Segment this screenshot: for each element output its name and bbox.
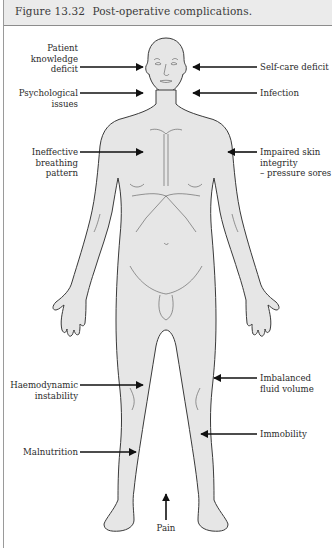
body <box>53 90 279 531</box>
label-line: Ineffective <box>32 147 78 158</box>
label-line: deficit <box>31 64 78 75</box>
label-self-care-deficit: Self-care deficit <box>260 62 329 73</box>
label-impaired-skin-integrity: Impaired skin integrity – pressure sores <box>260 147 331 179</box>
label-infection: Infection <box>260 88 299 99</box>
label-line: knowledge <box>31 54 78 65</box>
label-line: Malnutrition <box>23 447 78 458</box>
label-line: Infection <box>260 88 299 99</box>
label-line: integrity <box>260 158 331 169</box>
label-line: Haemodynamic <box>10 380 78 391</box>
label-malnutrition: Malnutrition <box>23 447 78 458</box>
label-patient-knowledge-deficit: Patient knowledge deficit <box>31 43 78 75</box>
label-line: breathing <box>32 158 78 169</box>
label-pain: Pain <box>146 523 186 534</box>
label-line: Immobility <box>260 429 307 440</box>
label-psychological-issues: Psychological issues <box>19 88 78 109</box>
human-body-front-outline-icon <box>53 38 279 531</box>
label-line: Pain <box>146 523 186 534</box>
label-line: Psychological <box>19 88 78 99</box>
label-imbalanced-fluid-volume: Imbalanced fluid volume <box>260 373 314 394</box>
label-line: pattern <box>32 168 78 179</box>
label-line: Self-care deficit <box>260 62 329 73</box>
label-line: Impaired skin <box>260 147 331 158</box>
label-line: – pressure sores <box>260 168 331 179</box>
label-line: fluid volume <box>260 384 314 395</box>
label-ineffective-breathing-pattern: Ineffective breathing pattern <box>32 147 78 179</box>
label-immobility: Immobility <box>260 429 307 440</box>
label-haemodynamic-instability: Haemodynamic instability <box>10 380 78 401</box>
label-line: Imbalanced <box>260 373 314 384</box>
human-body-diagram <box>0 0 332 548</box>
label-line: issues <box>19 99 78 110</box>
label-line: instability <box>10 391 78 402</box>
label-line: Patient <box>31 43 78 54</box>
